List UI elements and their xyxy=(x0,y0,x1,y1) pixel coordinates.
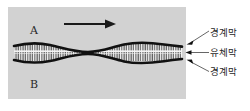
callout-label-upper-boundary: 경계막 xyxy=(210,28,237,38)
leader-line-top xyxy=(187,31,210,45)
region-label-b: B xyxy=(30,79,38,90)
diagram-panel: A B xyxy=(8,7,186,99)
figure-root: A B 경계막 유체막 경계막 xyxy=(0,0,250,111)
region-label-a: A xyxy=(30,25,38,36)
leader-line-bottom xyxy=(187,60,210,72)
callout-label-lower-boundary: 경계막 xyxy=(210,67,237,77)
callout-label-fluid-film: 유체막 xyxy=(210,48,237,58)
leader-line-middle xyxy=(186,50,210,54)
